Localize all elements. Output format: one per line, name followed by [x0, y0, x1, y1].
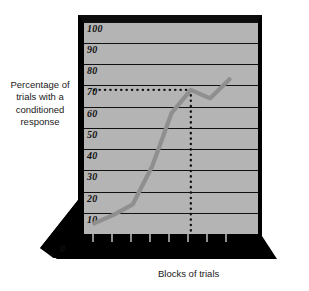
right-lower-cutout	[262, 236, 309, 291]
floor-bevel-b	[40, 236, 277, 259]
data-overlay	[84, 22, 258, 234]
plot-frame-right-bevel	[258, 15, 262, 236]
plot-frame-top-bevel	[78, 15, 262, 22]
y-axis-title: Percentage of trials with a conditioned …	[2, 79, 78, 129]
y-origin-label: 0	[60, 243, 65, 254]
plot-area: 100 90 80 70 60 50 40 30 20 10	[84, 22, 258, 234]
top-left-cutout	[0, 0, 78, 15]
x-axis-title: Blocks of trials	[158, 268, 219, 279]
conditioned-response-line	[94, 79, 229, 223]
figure-canvas: 100 90 80 70 60 50 40 30 20 10 0 Percent…	[0, 0, 309, 291]
